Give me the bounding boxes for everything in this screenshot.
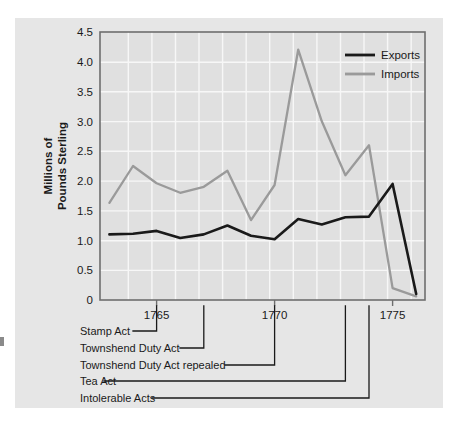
y-tick-label: 0 bbox=[87, 294, 93, 306]
legend-label-exports: Exports bbox=[381, 49, 420, 61]
y-axis-title-line2: Pounds Sterling bbox=[56, 122, 68, 210]
y-axis-tick-labels: 0 0.5 1.0 1.5 2.0 2.5 3.0 3.5 4.0 4.5 bbox=[77, 26, 93, 306]
leader-line-intolerable-acts bbox=[152, 306, 369, 398]
y-tick-label: 3.0 bbox=[77, 116, 93, 128]
annotation-label-townshend-repealed: Townshend Duty Act repealed bbox=[80, 359, 226, 371]
y-axis-title: Millions of Pounds Sterling bbox=[42, 122, 68, 210]
x-tick-label: 1775 bbox=[380, 309, 406, 321]
x-axis-tick-marks bbox=[157, 300, 393, 306]
annotation-label-stamp-act: Stamp Act bbox=[80, 325, 130, 337]
y-tick-label: 4.0 bbox=[77, 56, 93, 68]
y-tick-label: 0.5 bbox=[77, 264, 93, 276]
y-tick-label: 1.5 bbox=[77, 205, 93, 217]
y-axis-title-line1: Millions of bbox=[42, 137, 54, 194]
leader-line-townshend-duty-act bbox=[180, 306, 204, 348]
legend-label-imports: Imports bbox=[381, 68, 420, 80]
chart-svg: 0 0.5 1.0 1.5 2.0 2.5 3.0 3.5 4.0 4.5 Mi… bbox=[0, 0, 460, 421]
plot-area-background bbox=[100, 32, 425, 300]
y-tick-label: 2.5 bbox=[77, 145, 93, 157]
y-tick-label: 1.0 bbox=[77, 235, 93, 247]
y-tick-label: 4.5 bbox=[77, 26, 93, 38]
y-tick-label: 3.5 bbox=[77, 86, 93, 98]
annotation-label-tea-act: Tea Act bbox=[80, 375, 116, 387]
annotation-label-townshend-duty-act: Townshend Duty Act bbox=[80, 342, 180, 354]
y-tick-label: 2.0 bbox=[77, 175, 93, 187]
annotation-label-intolerable-acts: Intolerable Acts bbox=[80, 392, 156, 404]
